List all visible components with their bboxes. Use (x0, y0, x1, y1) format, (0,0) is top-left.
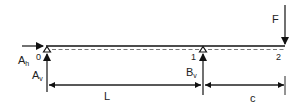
roller-support-icon (200, 47, 207, 53)
dimension-overhang (205, 76, 285, 95)
dimension-span-label: L (104, 90, 110, 102)
force-f-label: F (272, 13, 279, 25)
reaction-bv-label: Bv (186, 66, 197, 79)
node-2-label: 2 (276, 52, 281, 62)
reaction-av-label: Av (32, 69, 43, 82)
beam-diagram: F Ah Av Bv 0 1 2 L c (0, 0, 304, 111)
node-1-label: 1 (191, 52, 196, 62)
beam (46, 46, 285, 50)
node-0-label: 0 (36, 52, 41, 62)
pin-support-icon (44, 47, 51, 53)
dimension-overhang-label: c (250, 92, 256, 104)
reaction-ah-label: Ah (18, 54, 29, 67)
